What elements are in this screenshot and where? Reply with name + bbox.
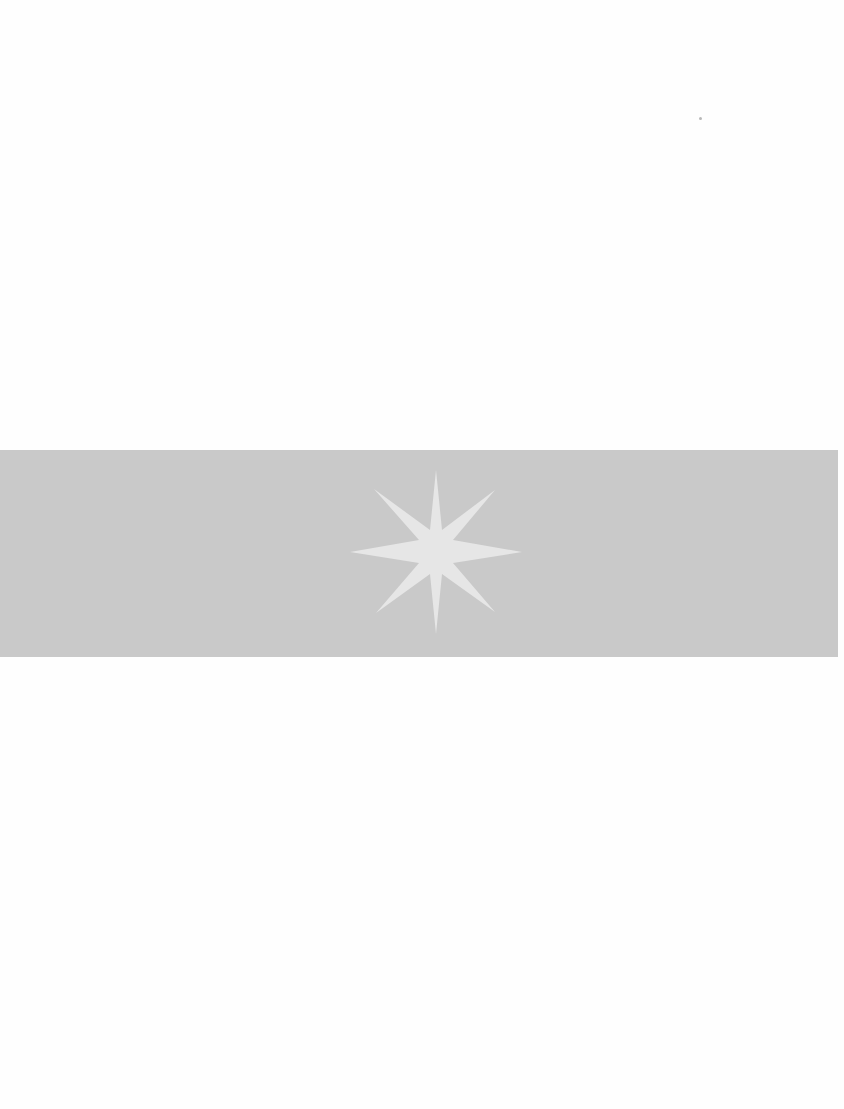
document-page [0,0,844,1109]
eight-point-star-icon [350,468,524,636]
scan-speck [699,117,702,120]
